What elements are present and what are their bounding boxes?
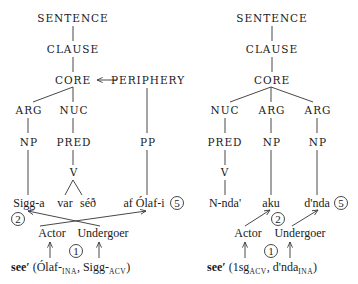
undergoer-to-sigga-arrow bbox=[28, 211, 100, 226]
word-var: var bbox=[57, 196, 72, 210]
nuc-node: NUC bbox=[59, 104, 88, 116]
logical-structure-right: see′ (1sgACV, d'ndaINA) bbox=[207, 260, 317, 276]
edge bbox=[271, 87, 313, 102]
predicate: see′ bbox=[11, 260, 30, 274]
step-2-label: 2 bbox=[275, 213, 281, 225]
pred-node: PRED bbox=[207, 136, 242, 148]
clause-node: CLAUSE bbox=[47, 43, 99, 55]
v-node: V bbox=[220, 166, 230, 178]
actor-to-olafi-arrow bbox=[40, 211, 146, 226]
np-node: NP bbox=[20, 136, 38, 148]
role-actor: Actor bbox=[38, 226, 65, 240]
word-sed: séð bbox=[80, 196, 96, 210]
logical-structure-left: see′ (Ólaf-INA, Sigg-ACV) bbox=[11, 260, 130, 276]
word-af-olafi: af Ólaf-i bbox=[124, 196, 166, 210]
sentence-node: SENTENCE bbox=[236, 12, 308, 24]
step-1-label: 1 bbox=[268, 245, 274, 257]
step-5-label: 5 bbox=[338, 197, 344, 209]
core-node: CORE bbox=[55, 74, 91, 86]
edge bbox=[73, 180, 82, 195]
nuc-node: NUC bbox=[210, 104, 239, 116]
pp-node: PP bbox=[140, 136, 156, 148]
core-node: CORE bbox=[254, 74, 290, 86]
actor-to-aku-arrow bbox=[245, 210, 270, 226]
word-nnda: N-nda' bbox=[209, 196, 241, 210]
edge bbox=[230, 87, 271, 102]
np-node-2: NP bbox=[309, 136, 327, 148]
np-node-1: NP bbox=[263, 136, 281, 148]
rrg-diagram: SENTENCE CLAUSE CORE PERIPHERY ARG NUC N… bbox=[0, 0, 358, 284]
predicate: see′ bbox=[207, 260, 226, 274]
word-dnda: d'nda bbox=[304, 196, 330, 210]
word-sigga: Sigg-a bbox=[13, 196, 45, 210]
periphery-node: PERIPHERY bbox=[111, 74, 185, 86]
edge bbox=[65, 180, 73, 195]
sentence-node: SENTENCE bbox=[37, 12, 109, 24]
word-aku: aku bbox=[262, 196, 279, 210]
step-5-label: 5 bbox=[174, 197, 180, 209]
left-tree: SENTENCE CLAUSE CORE PERIPHERY ARG NUC N… bbox=[11, 12, 185, 276]
undergoer-to-dnda-arrow bbox=[292, 210, 318, 226]
v-node: V bbox=[69, 166, 79, 178]
arg-node-2: ARG bbox=[304, 104, 332, 116]
step-1-label: 1 bbox=[73, 245, 79, 257]
step-2-label: 2 bbox=[15, 213, 21, 225]
clause-node: CLAUSE bbox=[246, 43, 298, 55]
right-tree: SENTENCE CLAUSE CORE NUC ARG ARG PRED NP… bbox=[207, 12, 348, 276]
edge bbox=[33, 87, 73, 102]
role-actor: Actor bbox=[234, 226, 261, 240]
role-undergoer: Undergoer bbox=[274, 226, 325, 240]
arg-node: ARG bbox=[15, 104, 43, 116]
arg-node-1: ARG bbox=[258, 104, 286, 116]
pred-node: PRED bbox=[56, 136, 91, 148]
role-undergoer: Undergoer bbox=[77, 226, 128, 240]
